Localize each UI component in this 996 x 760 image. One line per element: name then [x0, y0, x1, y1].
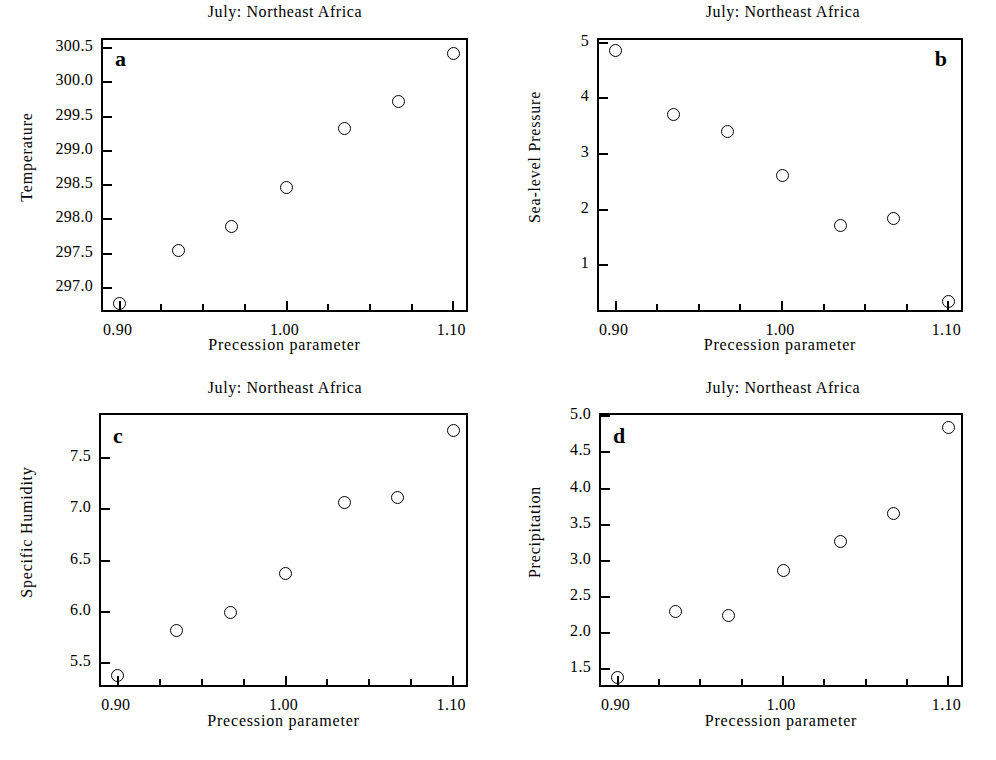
- panel-a-xtick: [286, 301, 288, 310]
- panel-b-xtick-label: 1.10: [906, 322, 986, 338]
- panel-b-ytick-label: 4: [498, 88, 589, 104]
- panel-b-xtick-minor: [823, 304, 825, 310]
- panel-a-ytick: [103, 47, 112, 49]
- panel-d-plot-frame: d: [599, 413, 963, 687]
- panel-b-xtick-minor: [739, 304, 741, 310]
- panel-b-ytick-label: 1: [498, 255, 589, 271]
- panel-d-ytick: [601, 415, 610, 417]
- panel-c-xtick-label: 0.90: [76, 697, 156, 713]
- figure-four-panel-scatter: July: Northeast Africa a Precession para…: [0, 0, 996, 760]
- panel-b-ytick: [599, 42, 608, 44]
- panel-b-title: July: Northeast Africa: [593, 2, 973, 22]
- panel-d-ytick-label: 1.5: [498, 659, 591, 675]
- panel-c-xtick-minor: [410, 679, 412, 685]
- panel-d-ytick: [601, 632, 610, 634]
- panel-a-ytick-label: 299.5: [0, 107, 93, 123]
- panel-d-ytick-label: 2.5: [498, 587, 591, 603]
- panel-a-ytick: [103, 116, 112, 118]
- panel-d-xtick-minor: [906, 679, 908, 685]
- panel-a-ytick: [103, 287, 112, 289]
- panel-b-letter: b: [935, 48, 947, 70]
- panel-a-ytick: [103, 150, 112, 152]
- panel-d-xtick-minor: [658, 679, 660, 685]
- panel-c-ytick: [101, 457, 110, 459]
- panel-d-ytick: [601, 560, 610, 562]
- panel-a-data-point: [447, 47, 460, 60]
- panel-c-ytick-label: 7.0: [0, 499, 91, 515]
- panel-c: July: Northeast Africa c Precession para…: [0, 375, 498, 760]
- panel-c-data-point: [338, 496, 351, 509]
- panel-a-data-point: [113, 297, 126, 310]
- panel-b-data-point: [609, 44, 622, 57]
- panel-b-xtick-minor: [864, 304, 866, 310]
- panel-b-ytick: [599, 209, 608, 211]
- panel-d-xtick-label: 1.00: [741, 697, 821, 713]
- panel-d-data-point: [777, 564, 790, 577]
- panel-d-ytick-label: 4.5: [498, 442, 591, 458]
- panel-b-ytick: [599, 264, 608, 266]
- panel-c-xtick-minor: [159, 679, 161, 685]
- panel-c-ytick-label: 6.0: [0, 602, 91, 618]
- panel-d-ytick: [601, 524, 610, 526]
- panel-a-ytick: [103, 253, 112, 255]
- panel-a-xaxis-title: Precession parameter: [101, 336, 468, 354]
- panel-d-data-point: [942, 421, 955, 434]
- panel-c-xtick-minor: [243, 679, 245, 685]
- panel-d-data-point: [834, 535, 847, 548]
- panel-b-data-point: [776, 169, 789, 182]
- panel-b: July: Northeast Africa b Precession para…: [498, 0, 996, 378]
- panel-c-data-point: [447, 424, 460, 437]
- panel-b-ytick: [599, 153, 608, 155]
- panel-d-ytick-label: 2.0: [498, 623, 591, 639]
- panel-b-xtick-minor: [656, 304, 658, 310]
- panel-d-xtick-minor: [823, 679, 825, 685]
- panel-c-data-point: [170, 624, 183, 637]
- panel-a-xtick: [452, 301, 454, 310]
- panel-a-title: July: Northeast Africa: [95, 2, 475, 22]
- panel-d-xaxis-title: Precession parameter: [599, 712, 963, 730]
- panel-c-ytick: [101, 508, 110, 510]
- panel-a-xtick-minor: [160, 304, 162, 310]
- panel-a-ytick-label: 299.0: [0, 141, 93, 157]
- panel-d-ytick: [601, 451, 610, 453]
- panel-a-data-point: [392, 95, 405, 108]
- panel-c-ytick-label: 5.5: [0, 653, 91, 669]
- panel-b-plot-frame: b: [597, 38, 963, 312]
- panel-c-ytick: [101, 560, 110, 562]
- panel-b-xtick: [615, 301, 617, 310]
- panel-d-ytick-label: 5.0: [498, 406, 591, 422]
- panel-c-xtick-minor: [368, 679, 370, 685]
- panel-c-ytick: [101, 611, 110, 613]
- panel-a-ytick: [103, 184, 112, 186]
- panel-c-letter: c: [113, 425, 123, 447]
- panel-b-data-point: [887, 212, 900, 225]
- panel-a-xtick-minor: [244, 304, 246, 310]
- panel-a-ytick-label: 298.5: [0, 175, 93, 191]
- panel-b-ytick: [599, 97, 608, 99]
- panel-d-ytick-label: 4.0: [498, 479, 591, 495]
- panel-c-ytick-label: 6.5: [0, 551, 91, 567]
- panel-b-ytick-label: 5: [498, 33, 589, 49]
- panel-c-ytick: [101, 662, 110, 664]
- panel-a-data-point: [280, 181, 293, 194]
- panel-a-xtick-minor: [202, 304, 204, 310]
- panel-b-data-point: [667, 108, 680, 121]
- panel-c-title: July: Northeast Africa: [95, 378, 475, 398]
- panel-c-data-point: [224, 606, 237, 619]
- panel-d-data-point: [722, 609, 735, 622]
- panel-b-xaxis-title: Precession parameter: [597, 336, 963, 354]
- panel-c-xaxis-title: Precession parameter: [99, 712, 468, 730]
- panel-a-ytick: [103, 81, 112, 83]
- panel-d-xtick-label: 1.10: [906, 697, 986, 713]
- panel-d: July: Northeast Africa d Precession para…: [498, 375, 996, 760]
- panel-d-letter: d: [613, 425, 625, 447]
- panel-b-xtick-label: 1.00: [740, 322, 820, 338]
- panel-b-xtick-label: 0.90: [574, 322, 654, 338]
- panel-c-xtick-label: 1.10: [411, 697, 491, 713]
- panel-b-data-point: [721, 125, 734, 138]
- panel-b-ytick-label: 3: [498, 144, 589, 160]
- panel-c-xtick: [452, 676, 454, 685]
- panel-c-xtick: [285, 676, 287, 685]
- panel-d-ytick-label: 3.0: [498, 551, 591, 567]
- panel-c-xtick-minor: [326, 679, 328, 685]
